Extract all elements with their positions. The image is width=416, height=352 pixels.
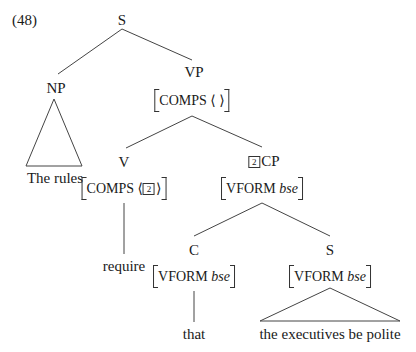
node-v: V — [119, 154, 130, 171]
feature-comps: COMPS — [87, 181, 134, 196]
cp-label: CP — [261, 153, 279, 169]
s-yield: the executives be polite — [259, 326, 400, 343]
node-vp: VP — [184, 64, 203, 81]
np-yield: The rules — [27, 170, 83, 187]
feature-vform: VFORM — [294, 269, 344, 284]
empty-list: ⟨ ⟩ — [210, 93, 224, 108]
v-yield: require — [103, 258, 145, 275]
c-avm: VFORM bse — [153, 268, 235, 285]
cp-avm: VFORM bse — [221, 180, 303, 197]
tag-box: 2 — [248, 156, 260, 168]
value-bse: bse — [347, 269, 366, 284]
node-s-embedded: S — [326, 242, 334, 259]
v-avm: COMPS ⟨2⟩ — [82, 180, 167, 197]
node-c: C — [189, 242, 199, 259]
node-np: NP — [46, 80, 65, 97]
node-s-root: S — [118, 12, 126, 29]
node-cp: 2CP — [248, 153, 279, 170]
feature-vform: VFORM — [226, 181, 276, 196]
value-bse: bse — [279, 181, 298, 196]
feature-comps: COMPS — [159, 93, 206, 108]
example-number: (48) — [12, 12, 37, 29]
s-avm: VFORM bse — [289, 268, 371, 285]
value-bse: bse — [211, 269, 230, 284]
feature-vform: VFORM — [158, 269, 208, 284]
c-yield: that — [183, 326, 206, 343]
tag-box: 2 — [143, 183, 155, 195]
vp-avm: COMPS ⟨ ⟩ — [154, 92, 229, 109]
